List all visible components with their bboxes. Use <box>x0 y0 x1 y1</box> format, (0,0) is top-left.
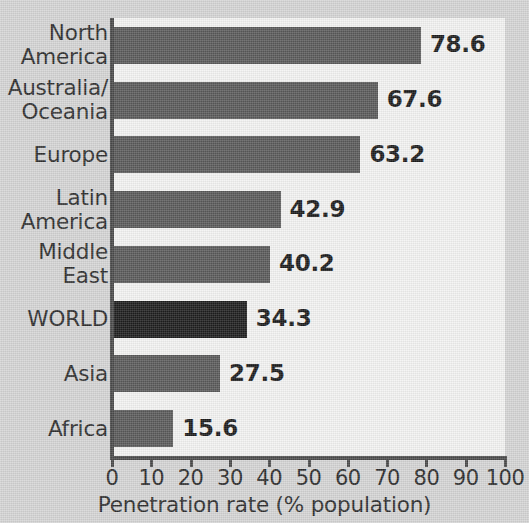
x-tick-label: 50 <box>296 466 322 490</box>
bar-value-label: 34.3 <box>256 305 312 331</box>
x-tick-label: 60 <box>335 466 361 490</box>
bar <box>112 246 270 283</box>
x-tick-label: 70 <box>374 466 400 490</box>
x-tick-label: 100 <box>486 466 525 490</box>
x-axis-title: Penetration rate (% population) <box>0 492 529 517</box>
bar-highlight <box>112 301 247 338</box>
bar <box>112 82 378 119</box>
category-label: WORLD <box>27 307 108 331</box>
x-tick-label: 20 <box>178 466 204 490</box>
bar-value-label: 42.9 <box>290 196 346 222</box>
x-tick-label: 10 <box>138 466 164 490</box>
x-tick-label: 30 <box>217 466 243 490</box>
category-label: Latin America <box>21 186 108 234</box>
bar <box>112 191 281 228</box>
bar <box>112 136 360 173</box>
bar <box>112 410 173 447</box>
bar-value-label: 67.6 <box>387 86 443 112</box>
x-tick-label: 80 <box>414 466 440 490</box>
bar-value-label: 63.2 <box>369 141 425 167</box>
bar-value-label: 40.2 <box>279 250 335 276</box>
category-label: Asia <box>64 362 108 386</box>
category-label: North America <box>21 21 108 69</box>
category-label: Europe <box>34 143 108 167</box>
bars-layer: North America78.6Australia/ Oceania67.6E… <box>0 0 529 523</box>
x-tick-label: 90 <box>453 466 479 490</box>
category-label: Africa <box>48 417 108 441</box>
category-label: Middle East <box>38 240 108 288</box>
bar-value-label: 15.6 <box>182 415 238 441</box>
bar <box>112 355 220 392</box>
x-tick-label: 40 <box>256 466 282 490</box>
y-axis-line <box>110 18 114 460</box>
bar <box>112 27 421 64</box>
category-label: Australia/ Oceania <box>8 76 108 124</box>
bar-chart: 0102030405060708090100 North America78.6… <box>0 0 529 523</box>
bar-value-label: 78.6 <box>430 31 486 57</box>
x-tick-label: 0 <box>106 466 119 490</box>
bar-value-label: 27.5 <box>229 360 285 386</box>
